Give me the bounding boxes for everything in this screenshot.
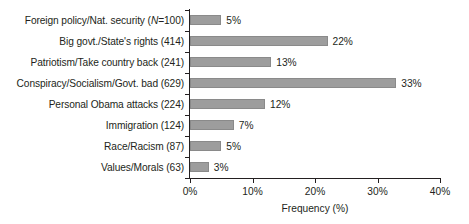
x-axis-tick-label: 30% bbox=[367, 185, 387, 198]
y-axis-tick bbox=[185, 52, 189, 53]
category-label: Foreign policy/Nat. security (N=100) bbox=[25, 10, 184, 31]
bar bbox=[190, 99, 265, 109]
category-label: Immigration (124) bbox=[106, 115, 184, 136]
y-axis-tick bbox=[185, 178, 189, 179]
x-axis-tick bbox=[315, 179, 316, 183]
category-label: Big govt./State's rights (414) bbox=[59, 31, 184, 52]
category-label: Conspiracy/Socialism/Govt. bad (629) bbox=[17, 73, 184, 94]
x-axis-tick-label: 40% bbox=[430, 185, 450, 198]
bar-row: 13% bbox=[190, 52, 440, 73]
bar-row: 33% bbox=[190, 73, 440, 94]
bar-value-label: 3% bbox=[214, 161, 229, 174]
x-axis-tick bbox=[253, 179, 254, 183]
y-axis-tick bbox=[185, 94, 189, 95]
bar-row: 22% bbox=[190, 31, 440, 52]
bar-value-label: 12% bbox=[270, 98, 290, 111]
y-axis-tick bbox=[185, 73, 189, 74]
bar-value-label: 7% bbox=[239, 119, 254, 132]
bar-row: 5% bbox=[190, 136, 440, 157]
category-label: Values/Morals (63) bbox=[101, 157, 184, 178]
bar bbox=[190, 78, 396, 88]
bar bbox=[190, 120, 234, 130]
bar bbox=[190, 57, 271, 67]
y-axis-tick bbox=[185, 157, 189, 158]
bar bbox=[190, 141, 221, 151]
x-axis-tick-label: 0% bbox=[183, 185, 198, 198]
x-axis-title: Frequency (%) bbox=[190, 203, 440, 214]
bar bbox=[190, 15, 221, 25]
x-axis-tick-label: 10% bbox=[242, 185, 262, 198]
category-label: Patriotism/Take country back (241) bbox=[31, 52, 184, 73]
bar-chart: Foreign policy/Nat. security (N=100)Big … bbox=[0, 0, 469, 224]
category-label: Personal Obama attacks (224) bbox=[49, 94, 184, 115]
y-axis-line bbox=[189, 9, 190, 179]
bar-value-label: 13% bbox=[276, 56, 296, 69]
bar bbox=[190, 162, 209, 172]
bar-row: 3% bbox=[190, 157, 440, 178]
y-axis-tick bbox=[185, 10, 189, 11]
bar bbox=[190, 36, 328, 46]
category-label-italic: N bbox=[151, 15, 158, 26]
bar-row: 7% bbox=[190, 115, 440, 136]
bar-value-label: 33% bbox=[401, 77, 421, 90]
bar-row: 5% bbox=[190, 10, 440, 31]
bar-value-label: 5% bbox=[226, 140, 241, 153]
bar-value-label: 5% bbox=[226, 14, 241, 27]
x-axis-tick bbox=[190, 179, 191, 183]
bar-value-label: 22% bbox=[333, 35, 353, 48]
y-axis-tick bbox=[185, 115, 189, 116]
y-axis-tick bbox=[185, 31, 189, 32]
bar-row: 12% bbox=[190, 94, 440, 115]
plot-area: 5%22%13%33%12%7%5%3% bbox=[190, 10, 440, 178]
x-axis-tick-label: 20% bbox=[305, 185, 325, 198]
y-axis-tick bbox=[185, 136, 189, 137]
category-label: Race/Racism (87) bbox=[104, 136, 184, 157]
x-axis-tick bbox=[440, 179, 441, 183]
x-axis-tick bbox=[378, 179, 379, 183]
